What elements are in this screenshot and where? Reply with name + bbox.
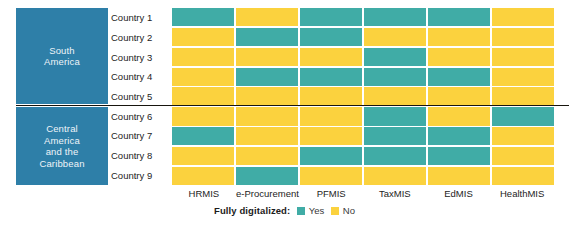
column-label: PFMIS xyxy=(299,187,363,201)
heatmap-cell xyxy=(492,48,554,66)
heatmap-cell xyxy=(236,8,298,26)
legend-title: Fully digitalized: xyxy=(214,205,290,216)
row-label: Country 1 xyxy=(110,8,172,28)
region-label-line-2: America xyxy=(39,135,84,147)
row-label: Country 5 xyxy=(110,87,172,107)
column-label: EdMIS xyxy=(427,187,491,201)
heatmap-cell xyxy=(364,167,426,185)
heatmap-cell xyxy=(172,127,234,145)
legend-swatch-no-icon xyxy=(331,207,339,215)
row-label: Country 8 xyxy=(110,146,172,166)
heatmap-cell xyxy=(300,87,362,105)
region-label-line-3: and the xyxy=(39,146,84,158)
digitalization-heatmap-chart: South America Central America and the Ca… xyxy=(0,0,569,226)
heatmap-cell xyxy=(364,147,426,165)
region-panel-south-america: South America xyxy=(16,8,108,104)
column-label-row: HRMISe-ProcurementPFMISTaxMISEdMISHealth… xyxy=(172,187,554,201)
heatmap-cell xyxy=(364,28,426,46)
legend-label-no: No xyxy=(343,205,355,216)
heatmap-cell xyxy=(300,147,362,165)
heatmap-cell xyxy=(236,28,298,46)
column-label: e-Procurement xyxy=(236,187,300,201)
column-label: HealthMIS xyxy=(490,187,554,201)
heatmap-cell xyxy=(172,8,234,26)
heatmap-cell xyxy=(428,107,490,125)
heatmap-cell xyxy=(364,87,426,105)
heatmap-cell xyxy=(492,8,554,26)
heatmap-cell xyxy=(428,87,490,105)
row-label-column: Country 1Country 2Country 3Country 4Coun… xyxy=(110,8,172,185)
heatmap-cell xyxy=(428,167,490,185)
legend-entry-no: No xyxy=(331,205,355,216)
heatmap-cell xyxy=(236,167,298,185)
column-label: HRMIS xyxy=(172,187,236,201)
heatmap-cell xyxy=(428,48,490,66)
heatmap-cell xyxy=(492,107,554,125)
heatmap-cell xyxy=(236,107,298,125)
heatmap-cell xyxy=(300,107,362,125)
heatmap-cell xyxy=(236,147,298,165)
heatmap-cell xyxy=(364,127,426,145)
heatmap-cell xyxy=(364,8,426,26)
heatmap-cell xyxy=(428,28,490,46)
heatmap-cell xyxy=(236,127,298,145)
heatmap-matrix xyxy=(172,8,554,185)
row-label: Country 3 xyxy=(110,47,172,67)
heatmap-cell xyxy=(300,167,362,185)
region-panel-central-america-caribbean: Central America and the Caribbean xyxy=(16,107,108,185)
heatmap-cell xyxy=(300,127,362,145)
heatmap-cell xyxy=(492,127,554,145)
heatmap-cell xyxy=(428,127,490,145)
heatmap-cell xyxy=(172,107,234,125)
heatmap-cell xyxy=(172,147,234,165)
region-label-line-1: South xyxy=(44,45,80,57)
heatmap-cell xyxy=(172,28,234,46)
heatmap-cell xyxy=(364,68,426,86)
heatmap-cell xyxy=(300,8,362,26)
legend-swatch-yes-icon xyxy=(297,207,305,215)
heatmap-cell xyxy=(492,147,554,165)
heatmap-cell xyxy=(492,28,554,46)
heatmap-cell xyxy=(172,167,234,185)
heatmap-cell xyxy=(300,68,362,86)
row-label: Country 9 xyxy=(110,165,172,185)
heatmap-cell xyxy=(300,48,362,66)
chart-legend: Fully digitalized: Yes No xyxy=(0,205,569,216)
legend-entry-yes: Yes xyxy=(297,205,324,216)
heatmap-cell xyxy=(364,107,426,125)
heatmap-cell xyxy=(428,8,490,26)
row-label: Country 7 xyxy=(110,126,172,146)
row-label: Country 4 xyxy=(110,67,172,87)
region-label-line-2: America xyxy=(44,56,80,68)
legend-label-yes: Yes xyxy=(309,205,325,216)
heatmap-cell xyxy=(364,48,426,66)
heatmap-cell xyxy=(492,167,554,185)
region-divider-line xyxy=(16,105,569,107)
heatmap-cell xyxy=(172,87,234,105)
heatmap-cell xyxy=(492,87,554,105)
heatmap-cell xyxy=(172,48,234,66)
heatmap-cell xyxy=(236,48,298,66)
heatmap-cell xyxy=(428,68,490,86)
heatmap-cell xyxy=(172,68,234,86)
column-label: TaxMIS xyxy=(363,187,427,201)
region-label-line-4: Caribbean xyxy=(39,158,84,170)
heatmap-cell xyxy=(236,87,298,105)
heatmap-cell xyxy=(492,68,554,86)
heatmap-cell xyxy=(300,28,362,46)
region-label-line-1: Central xyxy=(39,123,84,135)
heatmap-cell xyxy=(428,147,490,165)
row-label: Country 2 xyxy=(110,28,172,48)
heatmap-cell xyxy=(236,68,298,86)
row-label: Country 6 xyxy=(110,106,172,126)
